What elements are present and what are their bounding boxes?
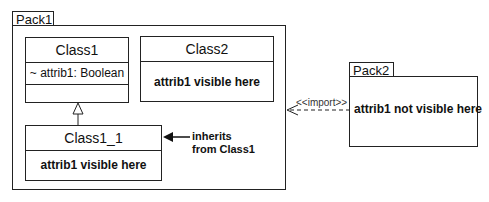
class1-1-box: Class1_1 attrib1 visible here [25, 125, 162, 181]
class1-attribute: ~ attrib1: Boolean [26, 63, 128, 85]
class2-note: attrib1 visible here [141, 62, 273, 102]
inherits-annotation: inherits from Class1 [192, 130, 255, 156]
class1-name: Class1 [26, 38, 128, 63]
pack2-note: attrib1 not visible here [354, 102, 482, 116]
pack2-package: attrib1 not visible here [349, 76, 478, 147]
annotation-line2: from Class1 [192, 143, 255, 156]
class1-1-note: attrib1 visible here [26, 151, 161, 181]
pack2-tab: Pack2 [349, 62, 394, 77]
class2-box: Class2 attrib1 visible here [140, 36, 274, 102]
class1-1-name: Class1_1 [26, 126, 161, 151]
import-label: <<import>> [296, 97, 347, 108]
class2-name: Class2 [141, 37, 273, 62]
class1-box: Class1 ~ attrib1: Boolean [25, 37, 129, 103]
annotation-line1: inherits [192, 130, 255, 143]
pack1-tab: Pack1 [12, 11, 54, 26]
